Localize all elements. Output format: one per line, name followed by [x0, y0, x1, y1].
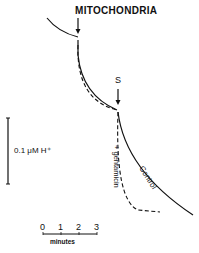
figure-canvas: Control + gentamicin	[0, 0, 199, 253]
s-label: S	[115, 75, 121, 85]
time-scale-bar	[43, 232, 97, 235]
gentamicin-label: + gentamicin	[112, 145, 121, 188]
mitochondria-arrow-icon	[76, 18, 81, 34]
tick-0: 0	[40, 222, 45, 232]
tick-1: 1	[58, 222, 63, 232]
concentration-scale-bar	[6, 118, 10, 184]
tick-3: 3	[94, 222, 99, 232]
concentration-scale-label: 0.1 μM H⁺	[14, 146, 51, 155]
control-trace-segment-2	[118, 112, 193, 215]
control-trace-segment-1	[78, 40, 117, 110]
s-arrow-icon	[116, 89, 121, 105]
control-label: Control	[137, 164, 158, 191]
tick-2: 2	[76, 222, 81, 232]
baseline-trace	[47, 18, 78, 37]
time-scale-label: minutes	[50, 238, 75, 245]
mitochondria-label: MITOCHONDRIA	[75, 5, 157, 16]
gentamicin-trace-segment-2	[118, 112, 160, 212]
